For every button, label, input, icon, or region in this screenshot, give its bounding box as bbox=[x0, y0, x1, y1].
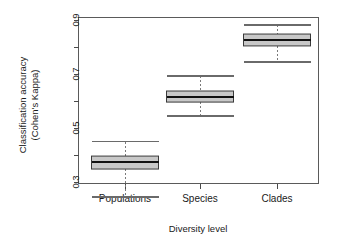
boxplot-figure: 0.30.50.70.9 PopulationsSpeciesClades Cl… bbox=[0, 0, 341, 248]
x-axis-tick-labels: PopulationsSpeciesClades bbox=[99, 193, 293, 204]
x-tick-label-species: Species bbox=[182, 193, 218, 204]
y-tick-label: 0.7 bbox=[70, 67, 81, 80]
y-tick-label: 0.5 bbox=[70, 121, 81, 134]
x-tick-label-clades: Clades bbox=[261, 193, 292, 204]
y-axis-title: Classification accuracy (Cohen's Kappa) bbox=[17, 56, 40, 153]
x-axis-title: Diversity level bbox=[169, 223, 228, 234]
boxplot-canvas: 0.30.50.70.9 PopulationsSpeciesClades Cl… bbox=[0, 0, 341, 248]
y-tick-label: 0.9 bbox=[70, 13, 81, 26]
y-axis-title-line1: Classification accuracy bbox=[17, 56, 28, 153]
y-tick-label: 0.3 bbox=[70, 175, 81, 188]
y-axis-title-line2: (Cohen's Kappa) bbox=[29, 70, 40, 141]
